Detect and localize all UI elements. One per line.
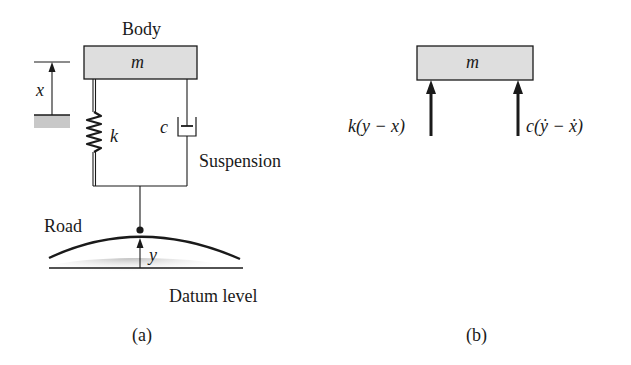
diagram-graphics xyxy=(0,0,631,365)
road-label: Road xyxy=(44,217,82,235)
spring-force-label: k(y − x) xyxy=(348,117,405,135)
spring-coil xyxy=(87,112,101,152)
caption-a: (a) xyxy=(132,326,152,344)
mass-label-b: m xyxy=(466,53,479,71)
datum-level-label: Datum level xyxy=(169,287,257,305)
mass-label-a: m xyxy=(131,53,144,71)
spring-constant-label: k xyxy=(110,127,118,145)
suspension-label: Suspension xyxy=(199,152,281,170)
damper-force-arrow-head xyxy=(513,80,523,94)
contact-point xyxy=(136,226,143,233)
y-displacement-label: y xyxy=(149,246,157,264)
y-arrow-head xyxy=(137,238,144,248)
spring-force-arrow-head xyxy=(426,80,436,94)
damper-force-label: c(ẏ − ẋ) xyxy=(526,117,583,135)
body-label: Body xyxy=(122,20,161,38)
caption-b: (b) xyxy=(466,326,487,344)
x-arrow-head xyxy=(49,62,56,72)
x-displacement-label: x xyxy=(36,81,44,99)
road-profile xyxy=(49,237,240,259)
quarter-car-suspension-figure: Body m x k c Suspension Road y Datum lev… xyxy=(0,0,631,365)
damping-coefficient-label: c xyxy=(160,118,168,136)
x-reference-ground xyxy=(34,115,70,128)
